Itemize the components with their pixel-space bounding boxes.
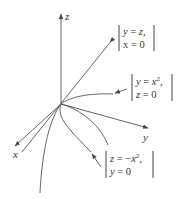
y-axis bbox=[61, 104, 148, 128]
y-axis-label: y bbox=[142, 131, 148, 143]
annotation-parabola-y-eq-x2: y = x2, z = 0 bbox=[132, 74, 172, 101]
annotation-line-y-eq-z: y = z, x = 0 bbox=[119, 25, 154, 51]
svg-text:x = 0: x = 0 bbox=[123, 39, 145, 50]
x-axis bbox=[15, 104, 61, 146]
annotation-parabola-z-eq-neg-x2: z = −x2, y = 0 bbox=[106, 151, 153, 178]
svg-text:y = z,: y = z, bbox=[122, 26, 146, 37]
curve-y-eq-x2 bbox=[61, 94, 113, 104]
pointer-y-eq-x2 bbox=[115, 89, 127, 93]
svg-text:y = 0: y = 0 bbox=[109, 166, 131, 177]
svg-text:z = −x2,: z = −x2, bbox=[109, 152, 142, 164]
diagram-canvas: z y x y = z, x = 0 y = x2, z = 0 z = −x2… bbox=[0, 0, 183, 199]
x-axis-label: x bbox=[12, 148, 18, 160]
pointer-z-eq-neg-x2 bbox=[92, 154, 101, 167]
z-axis-label: z bbox=[64, 10, 70, 22]
svg-text:z = 0: z = 0 bbox=[135, 89, 157, 100]
line-y-eq-z bbox=[22, 40, 112, 152]
svg-text:y = x2,: y = x2, bbox=[135, 75, 163, 87]
curve-z-eq-neg-x2-long bbox=[40, 104, 61, 193]
